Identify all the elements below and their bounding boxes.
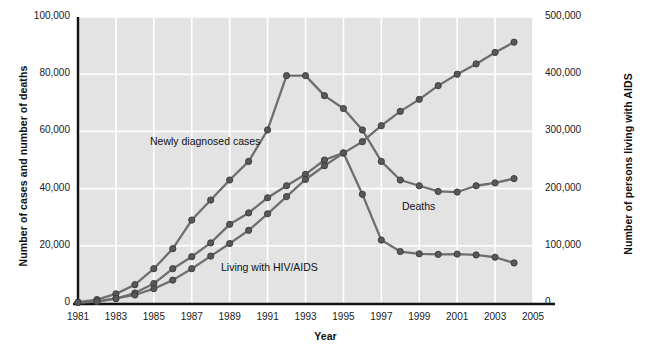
y-tick-label-left: 100,000	[10, 10, 70, 21]
y-tick-label-right: 100,000	[545, 239, 605, 250]
x-tick-label: 2005	[505, 311, 561, 322]
y-tick-label-right: 200,000	[545, 182, 605, 193]
series-label-newly-diagnosed: Newly diagnosed cases	[150, 135, 260, 147]
y-tick-label-right: 300,000	[545, 124, 605, 135]
x-axis-title: Year	[0, 330, 651, 342]
series-label-deaths: Deaths	[402, 200, 435, 212]
chart-figure: 0 20,000 40,000 60,000 80,000 100,000 0 …	[0, 0, 651, 355]
y-tick-label-right: 0	[545, 296, 605, 307]
y-axis-title-right: Number of persons living with AIDS	[622, 44, 634, 284]
series-label-living-with-hiv-aids: Living with HIV/AIDS	[221, 261, 318, 273]
y-axis-title-left: Number of cases and number of deaths	[17, 46, 29, 286]
y-tick-label-right: 500,000	[545, 10, 605, 21]
y-tick-label-right: 400,000	[545, 67, 605, 78]
y-tick-label-left: 0	[10, 296, 70, 307]
